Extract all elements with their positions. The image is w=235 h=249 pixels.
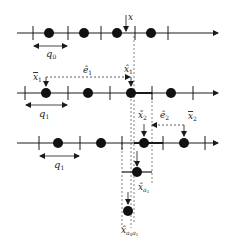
x-bar-2-label: x2 (188, 111, 197, 122)
e-hat-2-label: ê2 (160, 110, 169, 121)
x-hat-1-label: x̂1 (124, 64, 133, 75)
q0-label: q0 (46, 48, 56, 60)
x-bar-1-label: x1 (33, 72, 42, 83)
x-tilde-2-label: x̃2 (138, 110, 147, 121)
x-hat-a1-label: x̂a1 (138, 182, 149, 194)
q1-label: q1 (39, 108, 49, 120)
q1-second-label: q1 (54, 159, 64, 171)
x-label: x (128, 12, 133, 22)
quantization-diagram: x q0 x1 x̂1 ê1 q1 x̃2 ê2 x2 (0, 0, 235, 249)
x-hat-a0a1-dot (123, 206, 133, 216)
x-hat-a0a1-label: x̂a0a1 (121, 225, 138, 237)
x-hat-a1-dot (132, 167, 142, 177)
e-hat-1-label: ê1 (83, 65, 92, 76)
